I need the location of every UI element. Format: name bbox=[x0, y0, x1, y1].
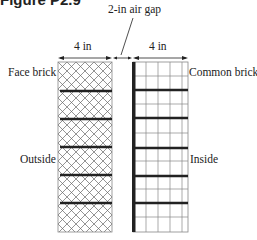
face-brick-wall bbox=[58, 62, 112, 232]
face-brick-label: Face brick bbox=[8, 66, 56, 78]
common-brick-wall bbox=[132, 62, 188, 232]
common-width-label: 4 in bbox=[149, 40, 167, 52]
inside-label: Inside bbox=[190, 153, 218, 165]
face-width-label: 4 in bbox=[74, 40, 92, 52]
common-brick-label: Common brick bbox=[189, 66, 257, 78]
dimension-arrows bbox=[58, 18, 188, 60]
wall-diagram bbox=[0, 0, 257, 240]
outside-label: Outside bbox=[20, 153, 56, 165]
air-gap-label: 2-in air gap bbox=[108, 3, 161, 15]
